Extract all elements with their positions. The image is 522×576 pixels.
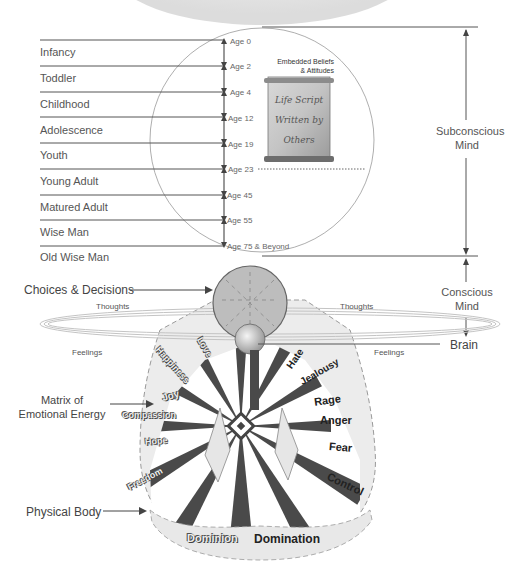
stage-old-wise-man: Old Wise Man [40,251,109,263]
physical-body-label: Physical Body [26,505,101,519]
subconscious-mind-label: Subconscious Mind [436,124,498,152]
age-marker-55: Age 55 [227,216,252,225]
life-script-text: Life Script Written by Others [268,90,330,150]
age-marker-2: Age 2 [230,62,251,71]
emotion-domination: Domination [254,532,320,546]
thoughts-label-left: Thoughts [96,302,129,311]
stage-childhood: Childhood [40,98,90,110]
stage-matured-adult: Matured Adult [40,201,108,213]
mind-body-diagram: Infancy Toddler Childhood Adolescence Yo… [0,0,522,576]
emotion-fear: Fear [329,440,353,454]
stage-wise-man: Wise Man [40,226,89,238]
emotion-compassion: Compassion [122,410,176,420]
age-marker-0: Age 0 [230,37,251,46]
age-marker-19: Age 19 [228,140,253,149]
feelings-label-right: Feelings [374,348,404,357]
age-marker-45: Age 45 [227,191,252,200]
emotion-anger: Anger [320,414,352,426]
choices-decisions-label: Choices & Decisions [24,283,134,297]
stage-youth: Youth [40,149,68,161]
subconscious-circle [150,28,374,252]
stage-young-adult: Young Adult [40,175,98,187]
brain-head [235,324,265,354]
age-marker-23: Age 23 [228,165,253,174]
matrix-label: Matrix of Emotional Energy [12,393,112,421]
stage-infancy: Infancy [40,46,75,58]
emotion-hope: Hope [145,435,168,447]
age-marker-4: Age 4 [230,88,251,97]
emotion-dominion: Dominion [187,532,238,544]
conscious-mind-label: Conscious Mind [440,285,494,313]
stage-adolescence: Adolescence [40,124,103,136]
top-circle [112,0,412,25]
stage-toddler: Toddler [40,72,76,84]
stage-lines [40,40,224,246]
thoughts-label-right: Thoughts [340,302,373,311]
feelings-label-left: Feelings [72,348,102,357]
age-marker-12: Age 12 [228,114,253,123]
beliefs-heading: Embedded Beliefs & Attitudes [264,57,334,75]
brain-label: Brain [450,338,478,352]
age-marker-75: Age 75 & Beyond [227,242,289,251]
